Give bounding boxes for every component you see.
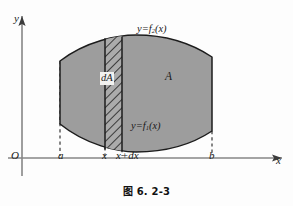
tick-label-b: b — [209, 150, 215, 161]
area-label-A: A — [165, 71, 172, 83]
upper-curve-suffix: (x) — [155, 23, 167, 34]
lower-curve-suffix: (x) — [149, 120, 161, 131]
figure-container: y x O a x x+dx b y=f2(x) y=f1(x) A dA 图 … — [0, 0, 293, 206]
area-element-label-dA: dA — [100, 72, 114, 85]
x-axis-label: x — [276, 155, 281, 166]
tick-label-a: a — [58, 150, 64, 161]
upper-curve-prefix: y=f — [137, 23, 152, 34]
lower-curve-prefix: y=f — [131, 120, 146, 131]
tick-label-x: x — [102, 150, 107, 161]
tick-label-x-plus-dx: x+dx — [116, 150, 139, 161]
lower-curve-label: y=f1(x) — [131, 121, 161, 132]
figure-caption: 图 6. 2-3 — [0, 183, 293, 198]
origin-label: O — [11, 150, 19, 161]
y-axis-label: y — [14, 13, 19, 24]
upper-curve-label: y=f2(x) — [137, 24, 167, 35]
region-area-A — [60, 35, 212, 152]
